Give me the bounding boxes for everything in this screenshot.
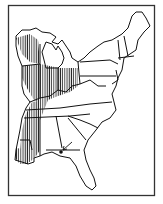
range-map [0, 0, 163, 204]
map-frame [9, 6, 155, 196]
